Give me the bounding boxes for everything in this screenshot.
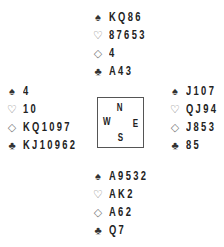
east-clubs-cards: 85 — [186, 136, 201, 154]
north-diamonds: ◇ 4 — [92, 44, 157, 62]
heart-icon: ♡ — [92, 185, 104, 203]
north-spades: ♠ KQ86 — [92, 8, 157, 26]
south-hand: ♠ A9532 ♡ AK2 ◇ A62 ♣ Q7 — [92, 167, 159, 239]
west-spades-cards: 4 — [23, 82, 31, 100]
south-clubs: ♣ Q7 — [92, 221, 159, 239]
east-hearts: ♡ QJ94 — [169, 100, 224, 118]
west-diamonds-cards: KQ1097 — [23, 118, 72, 136]
north-hearts: ♡ 87653 — [92, 26, 157, 44]
east-hearts-cards: QJ94 — [186, 100, 218, 118]
south-spades-cards: A9532 — [109, 167, 148, 185]
heart-icon: ♡ — [92, 26, 104, 44]
west-hearts-cards: 10 — [23, 100, 38, 118]
north-hand: ♠ KQ86 ♡ 87653 ◇ 4 ♣ A43 — [92, 8, 157, 80]
west-diamonds: ◇ KQ1097 — [6, 118, 93, 136]
club-icon: ♣ — [169, 136, 181, 154]
north-clubs: ♣ A43 — [92, 62, 157, 80]
north-diamonds-cards: 4 — [109, 44, 117, 62]
compass-south-label: S — [118, 132, 123, 143]
south-clubs-cards: Q7 — [109, 221, 126, 239]
east-diamonds-cards: J853 — [186, 118, 216, 136]
spade-icon: ♠ — [6, 82, 18, 100]
west-clubs: ♣ KJ10962 — [6, 136, 93, 154]
diamond-icon: ◇ — [92, 44, 104, 62]
west-hand: ♠ 4 ♡ 10 ◇ KQ1097 ♣ KJ10962 — [6, 82, 93, 154]
north-spades-cards: KQ86 — [109, 8, 143, 26]
south-diamonds-cards: A62 — [109, 203, 133, 221]
west-spades: ♠ 4 — [6, 82, 93, 100]
heart-icon: ♡ — [169, 100, 181, 118]
south-spades: ♠ A9532 — [92, 167, 159, 185]
diamond-icon: ◇ — [92, 203, 104, 221]
north-hearts-cards: 87653 — [109, 26, 147, 44]
spade-icon: ♠ — [169, 82, 181, 100]
west-clubs-cards: KJ10962 — [23, 136, 77, 154]
compass-north-label: N — [117, 102, 123, 113]
north-clubs-cards: A43 — [109, 62, 133, 80]
west-hearts: ♡ 10 — [6, 100, 93, 118]
club-icon: ♣ — [6, 136, 18, 154]
south-diamonds: ◇ A62 — [92, 203, 159, 221]
east-diamonds: ◇ J853 — [169, 118, 224, 136]
spade-icon: ♠ — [92, 167, 104, 185]
compass-box: N W E S — [97, 97, 144, 148]
compass-west-label: W — [103, 116, 111, 127]
diamond-icon: ◇ — [169, 118, 181, 136]
south-hearts-cards: AK2 — [109, 185, 135, 203]
east-spades-cards: J107 — [186, 82, 216, 100]
spade-icon: ♠ — [92, 8, 104, 26]
club-icon: ♣ — [92, 62, 104, 80]
heart-icon: ♡ — [6, 100, 18, 118]
east-spades: ♠ J107 — [169, 82, 224, 100]
diamond-icon: ◇ — [6, 118, 18, 136]
east-clubs: ♣ 85 — [169, 136, 224, 154]
east-hand: ♠ J107 ♡ QJ94 ◇ J853 ♣ 85 — [169, 82, 224, 154]
south-hearts: ♡ AK2 — [92, 185, 159, 203]
club-icon: ♣ — [92, 221, 104, 239]
compass-east-label: E — [133, 118, 138, 129]
